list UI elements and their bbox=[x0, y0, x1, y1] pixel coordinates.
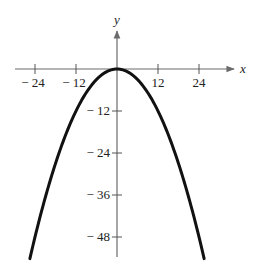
y-tick-label: − 24 bbox=[86, 145, 110, 160]
y-tick-label: − 12 bbox=[86, 103, 110, 118]
x-tick-label: 24 bbox=[193, 75, 207, 90]
x-tick-label: − 12 bbox=[62, 75, 86, 90]
axes: x y bbox=[15, 12, 246, 257]
x-axis-label: x bbox=[239, 61, 246, 76]
x-tick-label: 12 bbox=[152, 75, 165, 90]
y-tick-label: − 36 bbox=[86, 187, 110, 202]
parabola-plot: x y − 24− 121224 − 12− 24− 36− 48 bbox=[0, 0, 263, 268]
y-axis-label: y bbox=[112, 12, 120, 27]
y-tick-label: − 48 bbox=[86, 229, 110, 244]
x-tick-label: − 24 bbox=[21, 75, 45, 90]
